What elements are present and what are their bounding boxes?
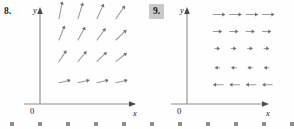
field-vector-line [78,30,84,40]
field-vector-line [59,53,65,61]
field-vector-arrowhead [268,29,271,33]
field-vector-arrowhead [271,12,274,16]
field-vector-line [78,6,82,19]
bottom-marker-strip [0,119,294,129]
x-axis-label: x [132,108,137,118]
field-vector-line [97,54,105,61]
field-vector-arrowhead [266,47,269,51]
field-vector-arrowhead [105,79,109,83]
origin-label: 0 [177,106,181,116]
field-vector-arrowhead [250,47,253,51]
field-vector-arrowhead [219,29,222,33]
y-axis-arrowhead [184,7,190,14]
axes-group-9: y x 0 [171,5,270,118]
vector-arrows-group-8 [59,1,128,83]
field-vector-line [97,31,104,40]
field-vector-arrowhead [247,66,250,70]
field-vector-arrowhead [246,83,249,87]
bottom-marker-square [94,122,98,126]
field-vector-arrowhead [213,83,216,87]
bottom-marker-square [178,122,182,126]
bottom-marker-square [66,122,70,126]
field-vector-arrowhead [231,66,234,70]
field-vector-arrowhead [235,29,238,33]
bottom-marker-square [206,122,210,126]
field-vector-line [97,7,103,19]
field-vector-arrowhead [252,29,255,33]
vector-arrows-group-9 [213,12,275,86]
x-axis-label: x [265,108,270,118]
bottom-marker-square [38,122,42,126]
field-vector-line [78,54,85,62]
bottom-marker-square [150,122,154,126]
field-vector-line [116,32,124,40]
field-vector-line [59,28,64,40]
field-vector-arrowhead [233,47,236,51]
figure-root: 8. y x 0 9. y x [0,0,294,129]
bottom-marker-square [262,122,266,126]
y-axis-label: y [32,5,37,15]
field-vector-line [116,81,125,83]
y-axis-arrowhead [37,7,43,14]
exercise-panel-8: 8. y x 0 [0,0,147,120]
field-vector-arrowhead [239,12,242,16]
field-vector-arrowhead [229,83,232,87]
field-vector-arrowhead [215,66,218,70]
field-vector-line [116,8,123,19]
field-vector-arrowhead [264,66,267,70]
field-vector-arrowhead [255,12,258,16]
field-vector-arrowhead [124,79,128,83]
bottom-marker-square [10,122,14,126]
field-vector-arrowhead [222,12,225,16]
field-vector-arrowhead [86,79,90,83]
field-vector-line [116,55,124,62]
field-vector-arrowhead [67,79,71,83]
x-axis-arrowhead [129,101,136,107]
field-vector-arrowhead [217,47,220,51]
exercise-panel-9: 9. y x 0 [147,0,294,120]
vector-field-plot-8: y x 0 [0,0,147,120]
axes-group-8: y x 0 [24,5,137,118]
field-vector-line [97,81,106,83]
field-vector-line [59,81,68,83]
bottom-marker-square [234,122,238,126]
field-vector-line [59,4,62,18]
x-axis-arrowhead [262,101,269,107]
bottom-marker-square [122,122,126,126]
y-axis-label: y [179,5,184,15]
vector-field-plot-9: y x 0 [147,0,294,120]
bottom-marker-square [290,122,294,126]
field-vector-arrowhead [262,83,265,87]
field-vector-arrowhead [60,1,64,5]
field-vector-line [78,81,87,83]
origin-label: 0 [30,106,34,116]
